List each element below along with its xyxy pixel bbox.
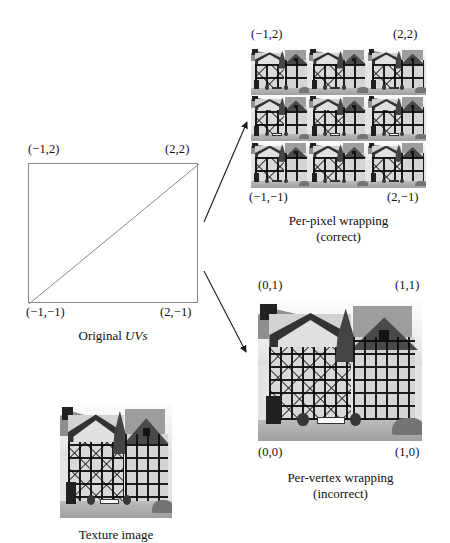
uv-label-bottom-right: (2,−1): [160, 306, 192, 319]
texture-tile: [251, 48, 309, 95]
texture-tile: [309, 95, 367, 142]
per-vertex-wrapped-image: [258, 300, 422, 441]
texture-image-caption: Texture image: [46, 527, 186, 542]
texture-tile: [368, 95, 426, 142]
texture-tile: [368, 48, 426, 95]
per-pixel-tiled-image: [251, 48, 426, 188]
texture-tile: [251, 141, 309, 188]
texture-wrapping-figure: (−1,2) (2,2) (−1,−1) (2,−1) Original UVs…: [0, 0, 450, 543]
source-texture-image: [60, 404, 172, 518]
texture-tile: [368, 141, 426, 188]
per-pixel-label-top-left: (−1,2): [251, 28, 283, 41]
uv-quad-caption: Original UVs: [28, 328, 198, 343]
per-pixel-label-bottom-right: (2,−1): [387, 191, 419, 204]
per-vertex-label-top-right: (1,1): [395, 279, 419, 292]
uv-quad-rectangle: [28, 163, 198, 303]
per-pixel-caption-line1: Per-pixel wrapping: [251, 213, 426, 228]
uv-label-top-left: (−1,2): [28, 143, 60, 156]
per-pixel-label-top-right: (2,2): [393, 28, 417, 41]
arrow-to-per-pixel: [204, 122, 247, 222]
per-vertex-label-bottom-right: (1,0): [395, 446, 419, 459]
uv-label-bottom-left: (−1,−1): [26, 306, 65, 319]
per-pixel-caption-line2: (correct): [251, 229, 426, 244]
per-vertex-caption-line1: Per-vertex wrapping: [253, 470, 428, 485]
per-vertex-caption-line2: (incorrect): [253, 486, 428, 501]
uv-quad-caption-italic: UVs: [125, 328, 147, 343]
per-vertex-label-bottom-left: (0,0): [258, 446, 282, 459]
uv-label-top-right: (2,2): [165, 143, 189, 156]
texture-tile: [251, 95, 309, 142]
uv-quad-diagonal: [29, 164, 199, 304]
texture-tile: [309, 141, 367, 188]
arrow-to-per-vertex: [204, 271, 246, 352]
per-vertex-label-top-left: (0,1): [258, 279, 282, 292]
per-pixel-label-bottom-left: (−1,−1): [249, 191, 288, 204]
texture-tile: [309, 48, 367, 95]
uv-quad-caption-text: Original: [79, 328, 126, 343]
